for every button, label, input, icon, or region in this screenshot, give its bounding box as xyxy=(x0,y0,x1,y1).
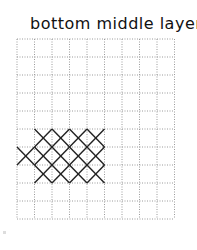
stitch-grid xyxy=(0,0,197,250)
corner-mark xyxy=(3,231,6,234)
